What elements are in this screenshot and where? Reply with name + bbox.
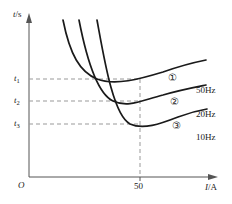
y-axis-arrow (26, 13, 32, 23)
y-tick-label-t1: t1 (14, 74, 20, 83)
x-axis (29, 174, 218, 180)
y-tick-t2-subscript: 2 (17, 99, 20, 106)
y-tick-t1-subscript: 1 (17, 77, 20, 84)
curve-series-3 (97, 20, 207, 126)
series-label-10hz: 10Hz (196, 133, 216, 142)
y-axis-unit: /s (16, 9, 22, 19)
y-axis (26, 13, 32, 177)
series-label-20hz: 20Hz (196, 110, 216, 119)
y-tick-t3-subscript: 3 (17, 122, 20, 129)
series-marker-1: ① (168, 73, 177, 83)
x-tick-label-50: 50 (134, 182, 143, 191)
series-marker-2: ② (170, 97, 179, 107)
origin-label: O (18, 181, 25, 190)
y-axis-label: t/s (13, 10, 22, 19)
series-label-50hz: 50Hz (196, 86, 216, 95)
chart-canvas (0, 0, 232, 204)
x-axis-unit: /A (208, 182, 217, 192)
y-tick-label-t2: t2 (14, 96, 20, 105)
inverse-time-characteristic-chart: t/s I/A O t1 t2 t3 50 ① ② ③ 50Hz 20Hz 10… (0, 0, 232, 204)
x-axis-arrow (208, 174, 218, 180)
curve-series-1 (63, 20, 206, 82)
series-marker-3: ③ (172, 121, 181, 131)
curve-series-2 (79, 20, 206, 104)
y-tick-label-t3: t3 (14, 119, 20, 128)
x-axis-label: I/A (205, 183, 217, 192)
guide-lines (29, 79, 140, 177)
